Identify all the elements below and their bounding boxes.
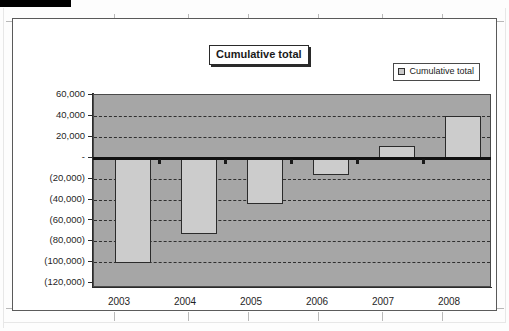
y-axis-label-wrap-neg40000: (40,000) xyxy=(13,194,85,204)
y-axis-label: 60,000 xyxy=(13,89,85,99)
x-axis-label-2004: 2004 xyxy=(152,296,218,307)
gridline-neg40000 xyxy=(94,200,490,201)
gridline-neg80000 xyxy=(94,241,490,242)
y-axis-label-wrap-neg120000: (120,000) xyxy=(13,277,85,287)
x-axis-label-2006: 2006 xyxy=(284,296,350,307)
category-tick xyxy=(290,159,293,164)
gridline-neg60000 xyxy=(94,220,490,221)
y-axis-label-wrap-20000: 20,000 xyxy=(13,131,85,141)
sheet-tick-bottom-3 xyxy=(248,312,249,321)
category-tick xyxy=(422,159,425,164)
y-axis-label-wrap-neg100000: (100,000) xyxy=(13,256,85,266)
bar-2006[interactable] xyxy=(313,158,349,175)
redaction-bar xyxy=(0,0,71,7)
x-axis-label-2003: 2003 xyxy=(86,296,152,307)
y-axis-label-wrap-60000: 60,000 xyxy=(13,89,85,99)
category-tick xyxy=(224,159,227,164)
gridline-neg20000 xyxy=(94,179,490,180)
x-axis-label-2007: 2007 xyxy=(350,296,416,307)
legend-swatch-icon xyxy=(398,68,405,75)
y-axis-label-wrap-neg20000: (20,000) xyxy=(13,173,85,183)
y-axis-label-wrap-40000: 40,000 xyxy=(13,110,85,120)
y-axis-label: 20,000 xyxy=(13,131,85,141)
sheet-tick-bottom-2 xyxy=(188,312,189,321)
chart-legend[interactable]: Cumulative total xyxy=(393,63,480,81)
y-axis-label: 40,000 xyxy=(13,110,85,120)
y-axis-label: (60,000) xyxy=(13,215,85,225)
bar-2005[interactable] xyxy=(247,158,283,204)
x-axis-line xyxy=(92,287,492,288)
chart-title[interactable]: Cumulative total xyxy=(209,45,309,65)
gridline-20000 xyxy=(94,137,490,138)
y-axis-label: (40,000) xyxy=(13,194,85,204)
sheet-hairline-left xyxy=(3,8,4,328)
sheet-tick-bottom-5 xyxy=(382,312,383,321)
y-axis-label: (100,000) xyxy=(13,256,85,266)
sheet-tick-bottom-1 xyxy=(114,312,115,321)
sheet-hairline-bottom xyxy=(3,322,506,323)
y-axis-label-wrap-neg60000: (60,000) xyxy=(13,215,85,225)
y-axis-label: - xyxy=(13,152,85,162)
sheet-tick-bottom-4 xyxy=(318,312,319,321)
gridline-neg100000 xyxy=(94,262,490,263)
x-axis-label-2005: 2005 xyxy=(218,296,284,307)
spreadsheet-page: Cumulative total Cumulative total 60,000… xyxy=(0,0,509,331)
y-axis-label: (80,000) xyxy=(13,235,85,245)
category-tick xyxy=(158,159,161,164)
y-axis-label-wrap-neg80000: (80,000) xyxy=(13,235,85,245)
sheet-hairline-right xyxy=(505,8,506,323)
bar-2004[interactable] xyxy=(181,158,217,234)
y-axis-label: (20,000) xyxy=(13,173,85,183)
x-axis-label-2008: 2008 xyxy=(416,296,482,307)
bar-2003[interactable] xyxy=(115,158,151,263)
gridline-40000 xyxy=(94,116,490,117)
legend-entry-label: Cumulative total xyxy=(409,66,474,77)
category-tick xyxy=(356,159,359,164)
y-axis-label-wrap-zero: - xyxy=(13,152,85,162)
sheet-tick-bottom-6 xyxy=(442,312,443,321)
plot-area xyxy=(93,94,491,287)
chart-object[interactable]: Cumulative total Cumulative total 60,000… xyxy=(12,18,497,311)
y-axis-label: (120,000) xyxy=(13,277,85,287)
bar-2008[interactable] xyxy=(445,116,481,158)
